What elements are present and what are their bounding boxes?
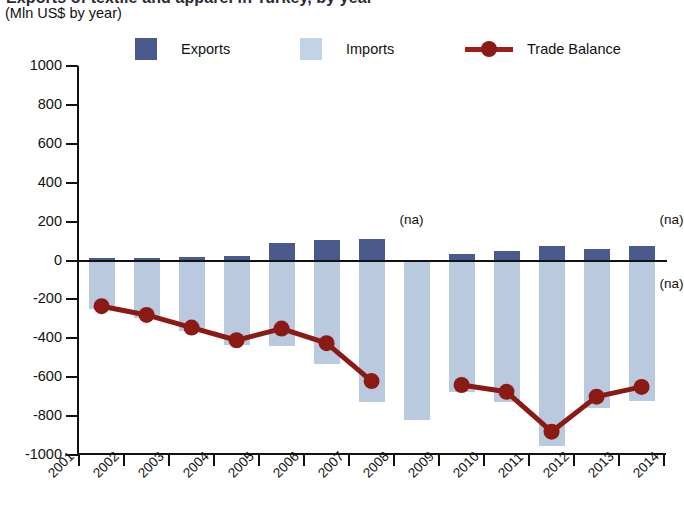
legend-swatch-imports-icon (300, 38, 322, 60)
legend-item-imports[interactable]: Imports (300, 38, 394, 60)
x-axis-tick (438, 455, 440, 466)
x-axis-tick (483, 455, 485, 466)
trade-balance-point-2005 (274, 321, 290, 337)
y-axis-tick-label: 0 (0, 252, 62, 268)
legend-line-marker-icon (465, 38, 513, 60)
y-axis-tick-label: 400 (0, 174, 62, 190)
trade-balance-point-2004 (229, 332, 245, 348)
legend-swatch-exports-icon (135, 38, 157, 60)
trade-balance-point-2002 (139, 307, 155, 323)
x-axis-tick (573, 455, 575, 466)
y-axis-tick-label: -600 (0, 368, 62, 384)
x-axis-tick (348, 455, 350, 466)
legend-item-exports[interactable]: Exports (135, 38, 230, 60)
y-axis-tick-label: 800 (0, 96, 62, 112)
y-axis-tick (66, 104, 78, 106)
trade-balance-point-2001 (94, 298, 110, 314)
y-axis-tick-label: -1000 (0, 446, 62, 462)
x-axis-tick (168, 455, 170, 466)
y-axis-tick (66, 143, 78, 145)
y-axis-tick-label: 600 (0, 135, 62, 151)
x-axis-tick (258, 455, 260, 466)
trade-balance-point-2012 (589, 389, 605, 405)
trade-balance-point-2006 (319, 335, 335, 351)
y-axis-tick-label: -800 (0, 407, 62, 423)
chart-subtitle: (Mln US$ by year) (5, 5, 122, 21)
x-axis-tick (618, 455, 620, 466)
trade-balance-point-2003 (184, 320, 200, 336)
trade-balance-point-2007 (364, 373, 380, 389)
x-axis-tick (303, 455, 305, 466)
y-axis-tick-label: -200 (0, 290, 62, 306)
y-axis-tick (66, 182, 78, 184)
legend-label-imports: Imports (346, 41, 394, 57)
x-axis-tick (663, 455, 665, 466)
y-axis-tick (66, 65, 78, 67)
trade-balance-point-2013 (634, 379, 650, 395)
y-axis-tick (66, 376, 78, 378)
trade-balance-line-series (78, 66, 665, 455)
y-axis-tick (66, 415, 78, 417)
legend-item-trade-balance[interactable]: Trade Balance (465, 38, 621, 60)
trade-balance-point-2009 (454, 377, 470, 393)
trade-balance-point-2011 (544, 424, 560, 440)
legend-label-exports: Exports (181, 41, 230, 57)
x-axis-tick (528, 455, 530, 466)
x-axis-tick (123, 455, 125, 466)
chart-legend: Exports Imports Trade Balance (135, 38, 675, 60)
y-axis-tick (66, 298, 78, 300)
y-axis-tick-label: -400 (0, 329, 62, 345)
y-axis-tick-label: 200 (0, 213, 62, 229)
y-axis-tick (66, 337, 78, 339)
x-axis-tick (393, 455, 395, 466)
legend-label-trade-balance: Trade Balance (527, 41, 621, 57)
plot-area: 10008006004002000-200-400-600-800-1000 2… (78, 66, 665, 455)
x-axis-tick (213, 455, 215, 466)
y-axis-tick-label: 1000 (0, 57, 62, 73)
y-axis-tick (66, 221, 78, 223)
trade-balance-point-2010 (499, 384, 515, 400)
x-axis-tick (78, 455, 80, 466)
